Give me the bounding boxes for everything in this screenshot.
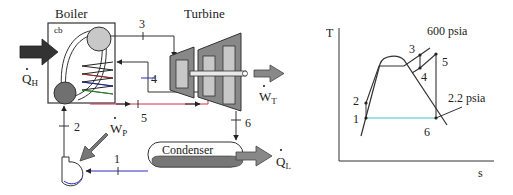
pump-work-label: WP — [110, 121, 127, 138]
state-1-label: 1 — [114, 152, 120, 166]
ts-label-4: 4 — [421, 70, 427, 84]
ts-point-1 — [364, 116, 367, 119]
heat-in-label: QH — [22, 71, 38, 88]
turbine — [170, 33, 248, 111]
rate-dot — [280, 149, 282, 151]
state-6-label: 6 — [245, 116, 251, 130]
boiler: cb — [48, 23, 115, 104]
heat-out-label: QL — [276, 154, 291, 171]
ts-label-2: 2 — [353, 94, 359, 108]
y-axis-label: T — [326, 26, 334, 40]
ts-label-1: 1 — [353, 112, 359, 126]
boiler-sub-label: cb — [54, 25, 63, 35]
ts-label-5: 5 — [442, 55, 448, 69]
rate-dot — [26, 68, 28, 70]
boiler-label: Boiler — [55, 6, 88, 21]
state-3-label: 3 — [139, 17, 145, 31]
ts-point-2 — [364, 101, 367, 104]
rankine-reheat-diagram: cb Boiler QH 3 4 — [0, 0, 513, 195]
schematic: cb Boiler QH 3 4 — [20, 6, 291, 186]
ts-point-3 — [418, 53, 421, 56]
low-pressure-isobar — [436, 107, 462, 118]
low-pressure-label: 2.2 psia — [448, 91, 486, 105]
state-5-label: 5 — [141, 111, 147, 125]
x-axis-label: s — [478, 166, 483, 180]
condenser-label: Condenser — [162, 143, 213, 157]
ts-point-6 — [434, 116, 437, 119]
turbine-work-arrow — [254, 65, 284, 82]
turbine-label: Turbine — [184, 6, 225, 21]
rate-dot — [263, 85, 265, 87]
pump-work-arrow — [80, 133, 108, 161]
high-pressure-label: 600 psia — [427, 24, 468, 38]
ts-diagram: T s 1 2 3 4 5 6 600 psia 2.2 p — [326, 24, 494, 180]
ts-point-5 — [434, 52, 437, 55]
ts-label-3: 3 — [409, 42, 415, 56]
state-4-label: 4 — [151, 72, 157, 86]
ts-label-6: 6 — [424, 125, 430, 139]
rate-dot — [114, 117, 116, 119]
saturation-dome — [361, 56, 447, 136]
turbine-work-label: WT — [259, 89, 277, 106]
state-2-label: 2 — [74, 120, 80, 134]
